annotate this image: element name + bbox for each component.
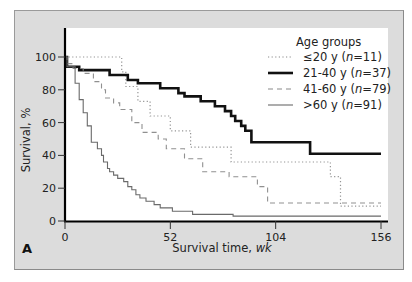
legend-entry: ≤20 y (n=11): [303, 50, 382, 64]
legend-entry: 41-60 y (n=79): [303, 82, 391, 96]
legend-entry: 21-40 y (n=37): [303, 66, 391, 80]
y-tick-label: 40: [42, 149, 56, 162]
y-tick-label: 20: [42, 182, 56, 195]
y-tick-label: 0: [49, 215, 56, 228]
y-axis-title: Survival, %: [19, 108, 33, 173]
legend-title: Age groups: [296, 35, 361, 49]
panel-label: A: [22, 241, 32, 256]
y-tick-label: 60: [42, 117, 56, 130]
survival-chart: 020406080100052104156 Age groups≤20 y (n…: [0, 0, 412, 282]
x-tick-label: 156: [371, 231, 392, 244]
legend-entry: >60 y (n=91): [303, 98, 382, 112]
y-tick-label: 80: [42, 84, 56, 97]
x-axis-title: Survival time, wk: [172, 241, 273, 255]
x-tick-label: 0: [62, 231, 69, 244]
y-tick-label: 100: [35, 51, 56, 64]
